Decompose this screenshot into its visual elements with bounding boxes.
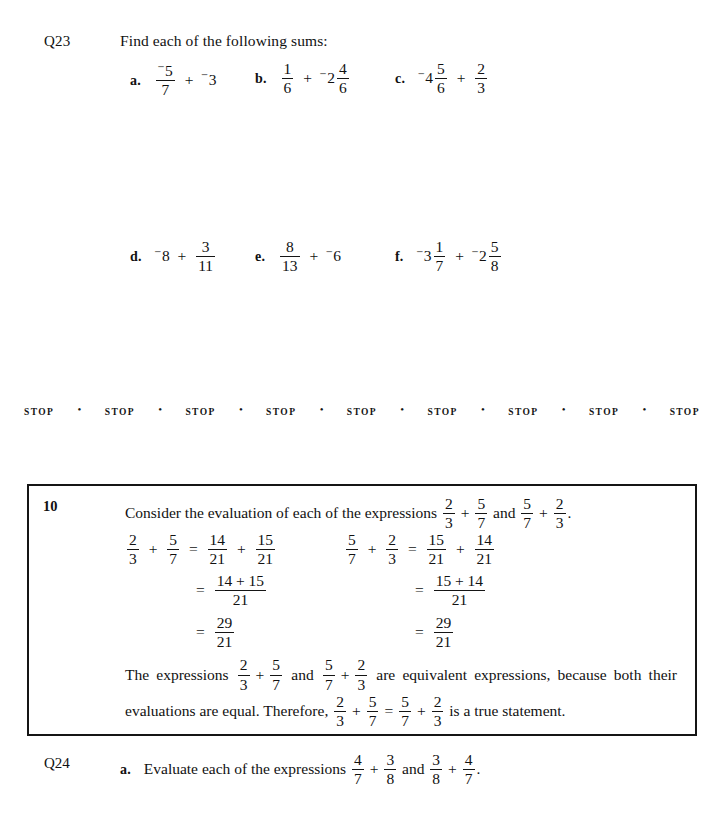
right-work-line-3: = 2921 xyxy=(411,616,455,652)
right-work-line-2: = 15 + 1421 xyxy=(411,574,487,610)
stop-word: STOP xyxy=(508,407,538,417)
problem-q23-b: b. 16 + −246 xyxy=(255,62,351,98)
stop-divider: STOP • STOP • STOP • STOP • STOP • STOP … xyxy=(24,406,700,417)
item-letter-b: b. xyxy=(255,71,267,86)
stop-word: STOP xyxy=(105,407,135,417)
q24-and: and xyxy=(402,760,424,777)
question-label-q23: Q23 xyxy=(44,33,70,50)
question-prompt-q23: Find each of the following sums: xyxy=(120,32,328,50)
stop-word: STOP xyxy=(185,407,215,417)
plus-operator: + xyxy=(309,247,318,264)
plus-operator: + xyxy=(457,69,466,86)
plus-operator: + xyxy=(178,247,187,264)
example-number: 10 xyxy=(43,498,58,515)
fraction-2-3: 23 xyxy=(475,61,487,97)
stop-dot: • xyxy=(481,404,485,415)
right-work-line-1: 57 + 23 = 1521 + 1421 xyxy=(344,533,496,569)
left-work-line-3: = 2921 xyxy=(192,616,236,652)
problem-q23-c: c. −456 + 23 xyxy=(395,62,489,98)
stop-dot: • xyxy=(562,404,566,415)
stop-word: STOP xyxy=(589,407,619,417)
stop-dot: • xyxy=(320,404,324,415)
question-label-q24: Q24 xyxy=(44,755,70,772)
fraction-3-11: 311 xyxy=(196,239,215,275)
item-letter-e: e. xyxy=(255,249,265,264)
item-letter-c: c. xyxy=(395,71,405,86)
stop-dot: • xyxy=(158,404,162,415)
example-heading: Consider the evaluation of each of the e… xyxy=(125,497,681,533)
plus-operator: + xyxy=(455,247,464,264)
stop-dot: • xyxy=(400,404,404,415)
item-letter-a: a. xyxy=(130,73,141,88)
heading-expression-2: 57+23. xyxy=(519,504,571,521)
integer-neg-3: −3 xyxy=(201,71,216,88)
left-work-line-1: 23 + 57 = 1421 + 1521 xyxy=(125,533,277,569)
heading-text-before: Consider the evaluation of each of the e… xyxy=(125,504,437,521)
mixed-neg-2-4-6: −246 xyxy=(320,69,351,86)
item-letter-a: a. xyxy=(120,762,131,777)
fraction-8-13: 813 xyxy=(280,239,300,275)
stop-word: STOP xyxy=(428,407,458,417)
stop-word: STOP xyxy=(266,407,296,417)
mixed-neg-3-1-7: −317 xyxy=(416,247,447,264)
textbook-page: Q23 Find each of the following sums: a. … xyxy=(0,0,723,831)
heading-and: and xyxy=(493,504,515,521)
stop-dot: • xyxy=(78,404,82,415)
paragraph-segment-4: is a true statement. xyxy=(449,702,565,719)
plus-operator: + xyxy=(185,71,194,88)
fraction-1-6: 16 xyxy=(282,61,294,97)
question-prompt-q24: a. Evaluate each of the expressions 47+3… xyxy=(120,753,480,789)
paragraph-expression-1: 23+57 xyxy=(236,666,284,683)
q24-text-before: Evaluate each of the expressions xyxy=(144,760,346,777)
left-work-line-2: = 14 + 1521 xyxy=(192,574,268,610)
q24-expression-1: 47+38 xyxy=(350,760,398,777)
paragraph-expression-3: 23+57=57+23 xyxy=(332,702,445,719)
mixed-neg-2-5-8: −258 xyxy=(472,247,503,264)
stop-word: STOP xyxy=(670,407,700,417)
plus-operator: + xyxy=(303,69,312,86)
paragraph-segment-1: The expressions xyxy=(125,666,229,683)
problem-q23-d: d. −8 + 311 xyxy=(130,240,217,276)
stop-word: STOP xyxy=(347,407,377,417)
problem-q23-e: e. 813 + −6 xyxy=(255,240,341,276)
integer-neg-6: −6 xyxy=(326,247,341,264)
stop-dot: • xyxy=(642,404,646,415)
example-box: 10 Consider the evaluation of each of th… xyxy=(27,484,697,736)
paragraph-and: and xyxy=(291,666,313,683)
heading-expression-1: 23+57 xyxy=(441,504,493,521)
stop-dot: • xyxy=(239,404,243,415)
fraction-neg-5-7: −57 xyxy=(156,61,175,99)
integer-neg-8: −8 xyxy=(155,247,170,264)
stop-word: STOP xyxy=(24,407,54,417)
q24-expression-2: 38+47. xyxy=(428,760,480,777)
mixed-neg-4-5-6: −456 xyxy=(418,69,449,86)
example-paragraph: The expressions 23+57 and 57+23 are equi… xyxy=(125,658,677,731)
paragraph-expression-2: 57+23 xyxy=(321,666,369,683)
item-letter-f: f. xyxy=(395,249,404,264)
item-letter-d: d. xyxy=(130,249,142,264)
problem-q23-f: f. −317 + −258 xyxy=(395,240,503,276)
problem-q23-a: a. −57 + −3 xyxy=(130,62,216,100)
